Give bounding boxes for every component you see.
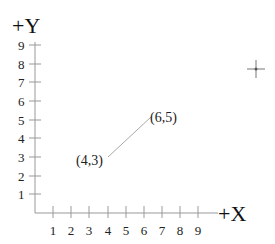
svg-text:4: 4 — [18, 131, 25, 146]
svg-text:7: 7 — [159, 223, 166, 238]
svg-text:3: 3 — [18, 150, 25, 165]
svg-text:9: 9 — [195, 223, 202, 238]
svg-text:8: 8 — [177, 223, 184, 238]
svg-text:2: 2 — [18, 169, 25, 184]
svg-text:5: 5 — [18, 113, 25, 128]
y-tick-labels: 1 2 3 4 5 6 7 8 9 — [18, 38, 25, 202]
svg-text:8: 8 — [18, 57, 25, 72]
crosshair-icon — [247, 60, 265, 78]
svg-text:1: 1 — [50, 223, 57, 238]
x-ticks — [53, 206, 198, 218]
svg-text:2: 2 — [68, 223, 75, 238]
svg-text:5: 5 — [123, 223, 130, 238]
svg-text:4: 4 — [105, 223, 112, 238]
svg-text:6: 6 — [141, 223, 148, 238]
y-axis-title: +Y — [12, 13, 40, 38]
coordinate-plane[interactable]: 1 2 3 4 5 6 7 8 9 1 2 3 4 5 6 7 8 9 +Y +… — [0, 0, 275, 244]
end-point-label: (6,5) — [150, 110, 177, 126]
svg-text:3: 3 — [86, 223, 93, 238]
svg-text:9: 9 — [18, 38, 25, 53]
line-segment[interactable] — [108, 117, 151, 157]
svg-text:7: 7 — [18, 75, 25, 90]
start-point-label: (4,3) — [76, 153, 103, 169]
svg-text:1: 1 — [18, 187, 25, 202]
x-tick-labels: 1 2 3 4 5 6 7 8 9 — [50, 223, 202, 238]
x-axis-title: +X — [218, 201, 246, 226]
svg-text:6: 6 — [18, 94, 25, 109]
